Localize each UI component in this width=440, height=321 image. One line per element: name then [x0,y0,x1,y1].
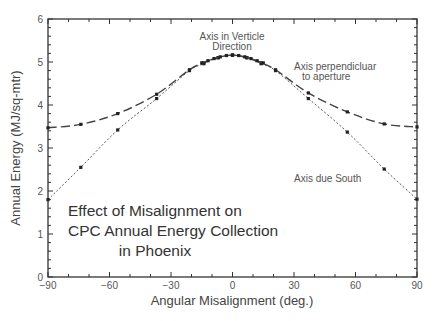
x-tick-label: 30 [288,280,300,291]
data-point-marker [200,61,203,64]
data-point-marker [219,55,222,58]
data-point-marker [256,59,259,62]
y-tick-label: 4 [37,100,43,111]
y-tick-label: 6 [37,14,43,25]
series-line [48,55,417,199]
y-axis-label: Annual Energy (MJ/sq-mtr) [8,70,23,225]
labels-layer: Annual Energy (MJ/sq-mtr) Angular Misali… [8,31,377,308]
data-point-marker [262,61,265,64]
data-point-marker [206,59,209,62]
data-point-marker [155,93,158,96]
data-point-marker [415,198,418,201]
title-line-3: in Phoenix [119,242,192,259]
data-point-marker [307,91,310,94]
y-tick-label: 3 [37,143,43,154]
data-point-marker [249,57,252,60]
x-tick-label: 90 [411,280,423,291]
x-tick-label: 0 [230,280,236,291]
data-point-marker [46,198,49,201]
data-point-marker [46,126,49,129]
data-point-marker [346,130,349,133]
data-point-marker [237,54,240,57]
x-tick-label: 60 [350,280,362,291]
x-tick-label: −30 [163,280,180,291]
y-tick-label: 5 [37,57,43,68]
data-point-marker [383,167,386,170]
data-point-marker [383,122,386,125]
data-point-marker [346,110,349,113]
title-line-2: CPC Annual Energy Collection [68,222,278,239]
series-2 [200,54,265,65]
data-point-marker [274,69,277,72]
annotation-vertical: Axis in Verticle Direction [199,31,264,52]
y-tick-label: 1 [37,229,43,240]
data-point-marker [79,123,82,126]
data-point-marker [116,128,119,131]
data-point-marker [79,166,82,169]
annotation-due-south: Axis due South [294,173,361,184]
series-1 [46,54,418,202]
data-point-marker [188,69,191,72]
data-point-marker [116,112,119,115]
series-layer [46,54,418,202]
data-point-marker [155,97,158,100]
x-axis-label: Angular Misalignment (deg.) [151,293,314,308]
data-point-marker [212,57,215,60]
data-point-marker [243,55,246,58]
data-point-marker [225,54,228,57]
y-tick-label: 0 [37,272,43,283]
annotation-perpendicular: Axis perpendicluar to aperture [294,61,377,82]
data-point-marker [307,97,310,100]
y-tick-label: 2 [37,186,43,197]
annotation-vertical-line-2: Direction [212,41,251,52]
annotation-perpendicular-line-2: to aperture [302,71,351,82]
chart-canvas: −90−60−3003060900123456 Annual Energy (M… [0,0,440,321]
data-point-marker [415,125,418,128]
data-point-marker [231,54,234,57]
title-line-1: Effect of Misalignment on [68,202,242,219]
chart-title: Effect of Misalignment on CPC Annual Ene… [68,202,278,259]
x-tick-label: −60 [101,280,118,291]
